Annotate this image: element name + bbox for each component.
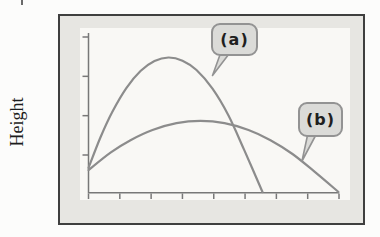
curve-a (89, 57, 263, 192)
figure: Height (a) (b) (0, 0, 380, 237)
callout-b-label: (b) (306, 110, 335, 129)
callout-a: (a) (211, 23, 258, 56)
callout-b: (b) (298, 102, 343, 137)
callout-a-label: (a) (220, 30, 248, 49)
